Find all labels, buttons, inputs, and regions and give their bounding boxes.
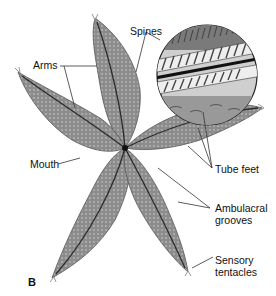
label-sensory-tentacles-1: Sensory: [215, 254, 254, 266]
label-sensory-tentacles-2: tentacles: [215, 266, 257, 278]
label-ambulacral-grooves-2: grooves: [215, 214, 252, 226]
label-spines: Spines: [130, 25, 162, 37]
label-tube-feet: Tube feet: [215, 163, 259, 175]
panel-label: B: [28, 276, 36, 288]
label-mouth: Mouth: [30, 158, 59, 170]
mouth-center: [122, 145, 128, 151]
starfish-illustration: [0, 0, 276, 296]
label-ambulacral-grooves-1: Ambulacral: [215, 202, 268, 214]
label-arms: Arms: [33, 59, 58, 71]
